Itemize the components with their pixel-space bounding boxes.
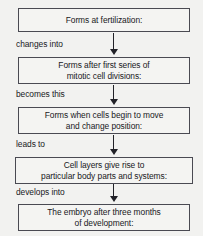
down-arrow-icon	[109, 135, 118, 155]
flowchart-connector-leads-to: leads to	[0, 134, 203, 157]
flowchart-node-cell-layers: Cell layers give rise to particular body…	[15, 157, 193, 184]
flowchart-node-embryo-three-months: The embryo after three months of develop…	[18, 204, 190, 231]
connector-label: changes into	[16, 39, 63, 49]
flowchart-node-label: Forms after first series of mitotic cell…	[55, 60, 152, 80]
down-arrow-icon	[109, 85, 118, 105]
flowchart-node-cells-move: Forms when cells begin to move and chang…	[18, 107, 190, 134]
connector-label: leads to	[16, 139, 45, 149]
connector-label: develops into	[16, 187, 65, 197]
flowchart-connector-changes-into: changes into	[0, 32, 203, 57]
flowchart-node-mitotic-divisions: Forms after first series of mitotic cell…	[18, 57, 190, 84]
flowchart-diagram: Forms at fertilization: changes into For…	[0, 0, 203, 236]
flowchart-node-fertilization: Forms at fertilization:	[18, 8, 190, 32]
connector-label: becomes this	[16, 89, 65, 99]
down-arrow-icon	[109, 184, 118, 202]
flowchart-node-label: Forms at fertilization:	[63, 15, 146, 25]
flowchart-connector-develops-into: develops into	[0, 184, 203, 204]
flowchart-node-label: The embryo after three months of develop…	[44, 207, 164, 227]
down-arrow-icon	[109, 33, 118, 55]
flowchart-node-label: Cell layers give rise to particular body…	[38, 160, 170, 180]
flowchart-node-label: Forms when cells begin to move and chang…	[42, 110, 167, 130]
flowchart-connector-becomes-this: becomes this	[0, 84, 203, 107]
